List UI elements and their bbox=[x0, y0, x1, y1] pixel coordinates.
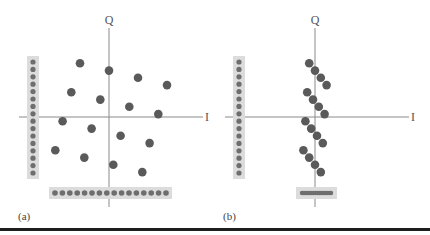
iq-constellation-figure: Q I (a) Q I (b) bbox=[0, 0, 430, 235]
q-projection-dot bbox=[236, 163, 241, 168]
q-projection-dot bbox=[30, 163, 35, 168]
constellation-point bbox=[154, 110, 163, 119]
q-projection-dot bbox=[236, 126, 241, 131]
q-projection-dot bbox=[30, 74, 35, 79]
q-projection-dot bbox=[30, 67, 35, 72]
constellation-point bbox=[80, 153, 89, 162]
q-projection-dot bbox=[236, 119, 241, 124]
i-projection-dot bbox=[104, 190, 110, 196]
panel-a: Q I (a) bbox=[18, 13, 209, 223]
constellation-point bbox=[299, 146, 308, 155]
bottom-rule bbox=[0, 228, 430, 231]
panel-b: Q I (b) bbox=[223, 13, 415, 223]
constellation-point bbox=[87, 124, 96, 133]
constellation-point bbox=[105, 66, 114, 75]
i-axis-label: I bbox=[411, 110, 415, 124]
constellation-point bbox=[313, 132, 322, 141]
constellation-point bbox=[322, 81, 331, 90]
q-projection-dot bbox=[236, 89, 241, 94]
i-projection-dot bbox=[329, 191, 333, 195]
q-projection-dot bbox=[236, 141, 241, 146]
constellation-point bbox=[311, 161, 320, 170]
q-projection-dot bbox=[30, 148, 35, 153]
panel-label: (b) bbox=[223, 210, 236, 223]
i-projection-band bbox=[296, 187, 337, 199]
q-projection-dot bbox=[236, 133, 241, 138]
constellation-point bbox=[109, 161, 118, 170]
constellation-point bbox=[303, 88, 312, 97]
i-projection-dot bbox=[60, 190, 66, 196]
constellation-point bbox=[58, 117, 67, 126]
constellation-point bbox=[96, 95, 105, 104]
q-projection-dot bbox=[30, 89, 35, 94]
q-projection-dot bbox=[236, 111, 241, 116]
q-projection-dot bbox=[236, 67, 241, 72]
i-projection-dot bbox=[134, 190, 140, 196]
i-projection-band bbox=[49, 187, 172, 199]
i-axis-label: I bbox=[205, 110, 209, 124]
i-projection-dot bbox=[126, 190, 132, 196]
q-projection-dot bbox=[30, 170, 35, 175]
i-projection-dot bbox=[119, 190, 125, 196]
q-axis-label: Q bbox=[311, 13, 320, 27]
q-projection-dot bbox=[236, 156, 241, 161]
q-projection-dot bbox=[30, 156, 35, 161]
i-projection-dot bbox=[97, 190, 103, 196]
i-projection-dot bbox=[111, 190, 117, 196]
constellation-points bbox=[51, 59, 171, 176]
constellation-point bbox=[51, 146, 60, 155]
q-projection-dot bbox=[30, 104, 35, 109]
constellation-point bbox=[307, 124, 316, 133]
constellation-point bbox=[163, 81, 172, 90]
constellation-point bbox=[317, 168, 326, 177]
constellation-point bbox=[319, 139, 328, 148]
q-projection-dot bbox=[30, 141, 35, 146]
q-projection-dot bbox=[236, 59, 241, 64]
i-projection-dot bbox=[148, 190, 154, 196]
i-projection-dot bbox=[74, 190, 80, 196]
constellation-point bbox=[76, 59, 85, 68]
i-projection-dot bbox=[67, 190, 73, 196]
constellation-point bbox=[311, 66, 320, 75]
i-projection-dot bbox=[163, 190, 169, 196]
q-projection-dot bbox=[30, 82, 35, 87]
constellation-point bbox=[315, 103, 324, 112]
constellation-point bbox=[305, 59, 314, 68]
i-projection-dot bbox=[82, 190, 88, 196]
constellation-point bbox=[67, 88, 76, 97]
q-projection-band bbox=[233, 56, 245, 179]
q-projection-dot bbox=[236, 74, 241, 79]
q-projection-dot bbox=[236, 148, 241, 153]
q-projection-dot bbox=[30, 111, 35, 116]
constellation-point bbox=[309, 95, 318, 104]
q-projection-dot bbox=[30, 133, 35, 138]
constellation-point bbox=[125, 103, 134, 112]
panel-label: (a) bbox=[18, 210, 31, 223]
constellation-point bbox=[134, 74, 143, 83]
constellation-point bbox=[116, 132, 125, 141]
q-projection-dot bbox=[236, 170, 241, 175]
constellation-point bbox=[320, 110, 329, 119]
constellation-point bbox=[317, 74, 326, 83]
q-projection-dot bbox=[30, 126, 35, 131]
q-projection-band bbox=[27, 56, 39, 179]
constellation-point bbox=[138, 168, 147, 177]
i-projection-dot bbox=[156, 190, 162, 196]
constellation-point bbox=[145, 139, 154, 148]
q-axis-label: Q bbox=[105, 13, 114, 27]
q-projection-dot bbox=[236, 104, 241, 109]
q-projection-dot bbox=[236, 82, 241, 87]
q-projection-dot bbox=[30, 59, 35, 64]
constellation-point bbox=[301, 117, 310, 126]
q-projection-dot bbox=[236, 96, 241, 101]
i-projection-dot bbox=[141, 190, 147, 196]
q-projection-dot bbox=[30, 96, 35, 101]
i-projection-dot bbox=[52, 190, 58, 196]
constellation-point bbox=[305, 153, 314, 162]
i-projection-dot bbox=[89, 190, 95, 196]
q-projection-dot bbox=[30, 119, 35, 124]
